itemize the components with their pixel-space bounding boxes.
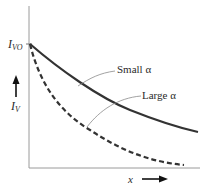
right-arrow-icon — [142, 176, 168, 183]
small-alpha-label: Small α — [117, 64, 151, 75]
small-alpha-curve — [30, 44, 198, 132]
large-alpha-label: Large α — [142, 90, 176, 101]
iv-axis-label: IV — [11, 100, 20, 114]
decay-diagram: IVO IV Small α Large α x — [0, 0, 212, 192]
up-arrow-icon — [13, 75, 20, 97]
diagram-canvas — [0, 0, 212, 192]
x-axis-label: x — [128, 174, 133, 185]
ivo-label: IVO — [8, 38, 22, 52]
